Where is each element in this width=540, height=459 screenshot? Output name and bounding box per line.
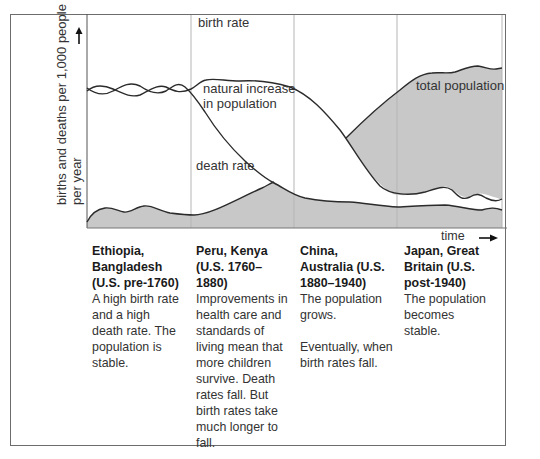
stage-1-title-line1: Ethiopia, bbox=[92, 243, 192, 259]
y-axis-label: births and deaths per 1,000 people per y… bbox=[54, 4, 84, 205]
stage-3-title-line1: China, bbox=[300, 243, 400, 259]
y-axis-label-line1: births and deaths per 1,000 people bbox=[54, 4, 69, 205]
stage-1-title-line3: (U.S. pre-1760) bbox=[92, 275, 192, 291]
stage-2-title-line3: 1880) bbox=[196, 275, 296, 291]
y-axis-label-line2: per year bbox=[69, 4, 84, 205]
stage-4-description: The population becomes stable. bbox=[404, 291, 494, 339]
natural-increase-label-line1: natural increase bbox=[203, 81, 296, 96]
stage-2-description: Improvements in health care and standard… bbox=[196, 291, 288, 451]
stage-1-column: Ethiopia, Bangladesh (U.S. pre-1760) A h… bbox=[92, 243, 192, 371]
birth-rate-label: birth rate bbox=[198, 15, 249, 30]
stage-3-title-line3: 1880–1940) bbox=[300, 275, 400, 291]
stage-3-description-1: The population grows. bbox=[300, 291, 395, 323]
stage-3-column: China, Australia (U.S. 1880–1940) The po… bbox=[300, 243, 400, 371]
stage-2-title-line1: Peru, Kenya bbox=[196, 243, 296, 259]
stage-4-title-line2: Britain (U.S. bbox=[404, 259, 504, 275]
death-rate-label: death rate bbox=[196, 158, 255, 173]
stage-2-title-line2: (U.S. 1760– bbox=[196, 259, 296, 275]
stage-4-column: Japan, Great Britain (U.S. post-1940) Th… bbox=[404, 243, 504, 339]
stage-1-title-line2: Bangladesh bbox=[92, 259, 192, 275]
stage-3-title-line2: Australia (U.S. bbox=[300, 259, 400, 275]
x-axis-arrow-icon bbox=[479, 235, 498, 242]
natural-increase-label-line2: in population bbox=[203, 96, 277, 111]
stage-4-title-line1: Japan, Great bbox=[404, 243, 504, 259]
stage-3-description-2: Eventually, when birth rates fall. bbox=[300, 339, 395, 371]
stage-1-description: A high birth rate and a high death rate.… bbox=[92, 291, 184, 371]
x-axis-label: time bbox=[441, 229, 465, 244]
total-population-label: total population bbox=[416, 78, 504, 93]
stage-4-title-line3: post-1940) bbox=[404, 275, 504, 291]
stage-2-column: Peru, Kenya (U.S. 1760– 1880) Improvemen… bbox=[196, 243, 296, 451]
